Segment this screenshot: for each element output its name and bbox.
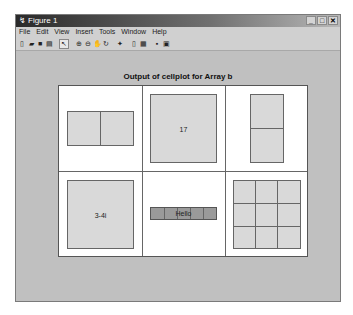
title-bar[interactable]: ↯ Figure 1 _ □ ✕ xyxy=(16,15,340,27)
cell-value: 3-4i xyxy=(68,211,133,218)
plot-title: Output of cellplot for Array b xyxy=(16,72,340,81)
menu-bar: File Edit View Insert Tools Window Help xyxy=(16,27,340,37)
cell-2-1-scalar: 3-4i xyxy=(67,180,134,249)
array-element xyxy=(233,180,256,204)
cell-2-2-string: Hello xyxy=(150,207,217,220)
cell-1-3-array xyxy=(250,94,284,163)
matlab-icon: ↯ xyxy=(19,16,26,26)
legend-icon[interactable]: ▦ xyxy=(139,40,147,48)
cellplot-axes[interactable]: 17 3-4i Hello xyxy=(58,85,308,257)
close-button[interactable]: ✕ xyxy=(328,16,338,25)
toolbar: ▯ ▰ ■ ▤ ↖ ⊕ ⊖ ✋ ↻ ✦ ▯ ▦ ▪ ▣ xyxy=(16,37,340,51)
new-figure-icon[interactable]: ▯ xyxy=(18,40,26,48)
zoom-in-icon[interactable]: ⊕ xyxy=(75,40,83,48)
window-controls: _ □ ✕ xyxy=(306,16,338,25)
hide-plot-tools-icon[interactable]: ▪ xyxy=(153,40,161,48)
cell-1-2-scalar: 17 xyxy=(150,94,217,163)
array-element xyxy=(277,180,301,204)
array-element xyxy=(255,226,278,249)
cell-2-3-array xyxy=(233,180,301,249)
menu-insert[interactable]: Insert xyxy=(75,27,93,37)
array-element xyxy=(233,226,256,249)
menu-view[interactable]: View xyxy=(54,27,69,37)
rotate-3d-icon[interactable]: ↻ xyxy=(102,40,110,48)
figure-window: ↯ Figure 1 _ □ ✕ File Edit View Insert T… xyxy=(15,14,341,302)
array-element xyxy=(67,111,101,146)
pan-icon[interactable]: ✋ xyxy=(93,40,101,48)
array-element xyxy=(250,128,284,163)
menu-edit[interactable]: Edit xyxy=(36,27,48,37)
save-icon[interactable]: ■ xyxy=(36,40,44,48)
maximize-button[interactable]: □ xyxy=(317,16,327,25)
cell-value: Hello xyxy=(151,208,216,219)
cell-1-1-array xyxy=(67,111,134,146)
grid-divider xyxy=(59,171,307,172)
array-element xyxy=(277,226,301,249)
open-file-icon[interactable]: ▰ xyxy=(27,40,35,48)
print-icon[interactable]: ▤ xyxy=(45,40,53,48)
array-element xyxy=(233,203,256,227)
menu-tools[interactable]: Tools xyxy=(99,27,115,37)
menu-help[interactable]: Help xyxy=(152,27,166,37)
cell-value: 17 xyxy=(151,125,216,132)
data-cursor-icon[interactable]: ✦ xyxy=(116,40,124,48)
zoom-out-icon[interactable]: ⊖ xyxy=(84,40,92,48)
edit-plot-icon[interactable]: ↖ xyxy=(59,39,69,49)
show-plot-tools-icon[interactable]: ▣ xyxy=(162,40,170,48)
minimize-button[interactable]: _ xyxy=(306,16,316,25)
array-element xyxy=(100,111,134,146)
menu-window[interactable]: Window xyxy=(121,27,146,37)
array-element xyxy=(250,94,284,129)
colorbar-icon[interactable]: ▯ xyxy=(130,40,138,48)
array-element xyxy=(277,203,301,227)
array-element xyxy=(255,180,278,204)
menu-file[interactable]: File xyxy=(19,27,30,37)
window-title: Figure 1 xyxy=(28,15,57,27)
array-element xyxy=(255,203,278,227)
